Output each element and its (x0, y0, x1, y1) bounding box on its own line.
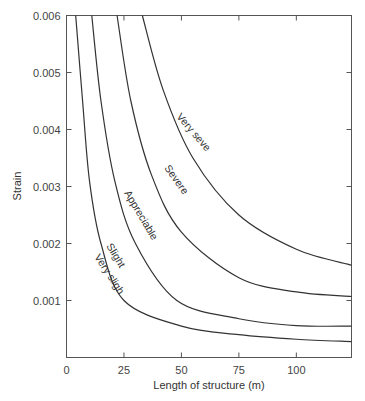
x-tick-label: 75 (233, 364, 245, 376)
x-axis-title: Length of structure (m) (153, 379, 264, 391)
x-axis: 0255075100 (63, 16, 305, 376)
chart-svg: 0255075100 0.0010.0020.0030.0040.0050.00… (0, 0, 365, 401)
x-tick-label: 25 (118, 364, 130, 376)
y-tick-label: 0.004 (33, 124, 61, 136)
curve-severe (117, 16, 351, 297)
y-axis-title: Strain (11, 172, 23, 201)
plot-frame (67, 16, 352, 358)
y-tick-label: 0.006 (33, 10, 61, 22)
y-tick-label: 0.003 (33, 181, 61, 193)
x-tick-label: 0 (63, 364, 69, 376)
curve-appreciable (92, 16, 352, 327)
label-appreciable: Appreciable (122, 188, 161, 242)
curve-very-severe (142, 16, 351, 266)
y-tick-label: 0.005 (33, 67, 61, 79)
y-tick-label: 0.002 (33, 238, 61, 250)
x-tick-label: 100 (287, 364, 305, 376)
x-tick-label: 50 (175, 364, 187, 376)
label-severe: Severe (162, 162, 191, 196)
y-tick-label: 0.001 (33, 295, 61, 307)
